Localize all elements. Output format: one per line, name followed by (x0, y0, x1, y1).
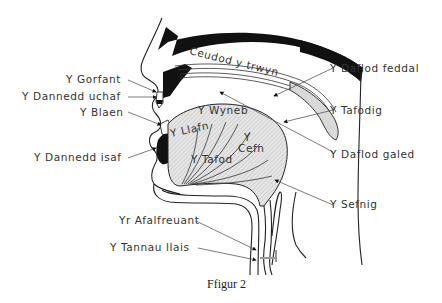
label-wyneb: Y Wyneb (197, 104, 248, 116)
label-tafod: Y Tafod (190, 153, 233, 165)
label-dannedd-isaf: Y Dannedd isaf (33, 151, 122, 163)
mouth-floor (154, 184, 252, 275)
vocal-tract-diagram: Ceudod y trwyn Y Gorfant Y Dannedd uchaf… (0, 0, 442, 303)
label-afalfreuant: Yr Afalfreuant (118, 214, 199, 226)
label-dannedd-uchaf: Y Dannedd uchaf (21, 90, 121, 102)
label-tafodig: Y Tafodig (329, 104, 383, 116)
label-cefn: Cefn (238, 142, 265, 154)
vocal-tract-figure: Ceudod y trwyn Y Gorfant Y Dannedd uchaf… (0, 0, 442, 303)
figure-caption: Ffigur 2 (207, 277, 246, 291)
pharynx-back-wall (358, 72, 362, 265)
label-daflod-galed: Y Daflod galed (329, 148, 415, 160)
neck-back (292, 192, 306, 258)
label-daflod-feddal: Y Daflod feddal (329, 62, 419, 74)
label-tannau-llais: Y Tannau llais (109, 241, 190, 253)
label-blaen: Y Blaen (79, 106, 124, 118)
label-sefnig: Y Sefnig (329, 198, 378, 210)
label-gorfant: Y Gorfant (65, 73, 121, 85)
epiglottis (264, 206, 266, 275)
